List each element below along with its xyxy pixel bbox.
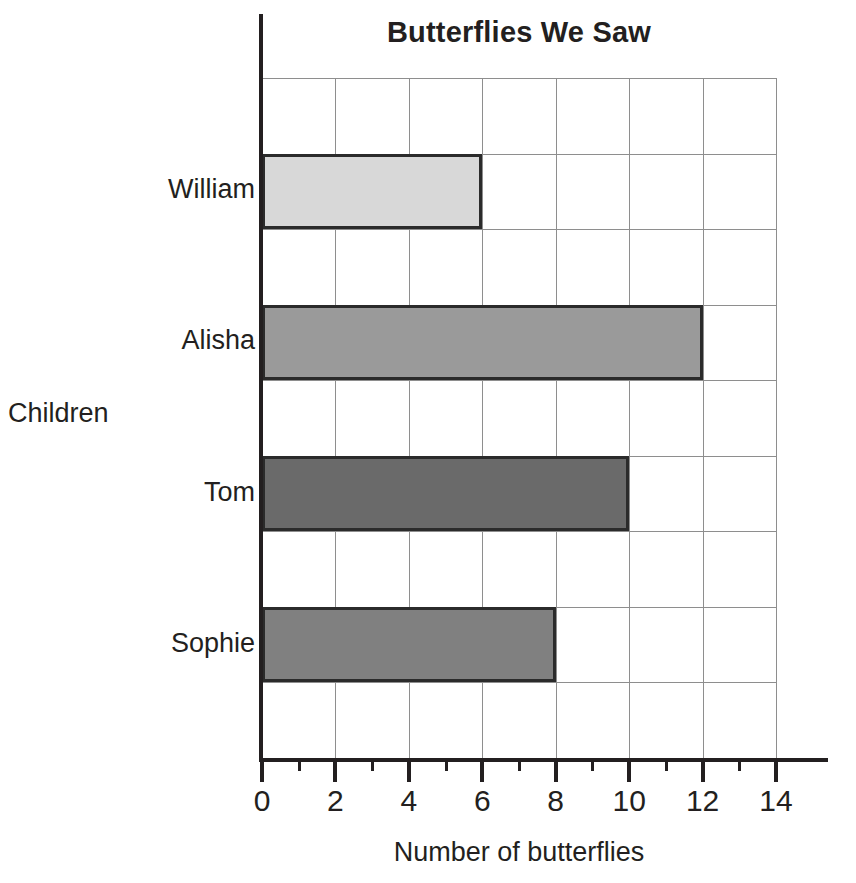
x-axis-line (259, 758, 828, 762)
x-axis-title: Number of butterflies (262, 837, 776, 868)
category-label-sophie: Sophie (25, 628, 255, 659)
x-tick-major (774, 758, 778, 782)
y-axis-title: Children (8, 398, 109, 429)
gridline-horizontal (262, 78, 776, 79)
gridline-horizontal (262, 531, 776, 532)
x-tick-major (333, 758, 337, 782)
y-axis-line (259, 14, 263, 762)
bar-chart: Butterflies We Saw 02468101214 WilliamAl… (0, 0, 856, 883)
bar-william (262, 154, 482, 230)
x-tick-major (627, 758, 631, 782)
gridline-vertical (703, 78, 704, 758)
x-tick-label: 8 (526, 784, 586, 818)
x-tick-major (480, 758, 484, 782)
x-tick-label: 2 (305, 784, 365, 818)
bar-sophie (262, 607, 556, 683)
x-tick-major (701, 758, 705, 782)
x-tick-label: 10 (599, 784, 659, 818)
x-tick-major (260, 758, 264, 782)
gridline-vertical (556, 78, 557, 758)
gridline-vertical (629, 78, 630, 758)
plot-area (262, 78, 776, 758)
category-label-tom: Tom (25, 477, 255, 508)
x-tick-label: 14 (746, 784, 806, 818)
x-tick-minor (371, 758, 374, 771)
x-tick-minor (665, 758, 668, 771)
x-tick-minor (298, 758, 301, 771)
bar-tom (262, 456, 629, 532)
category-label-william: William (25, 174, 255, 205)
x-tick-minor (445, 758, 448, 771)
x-tick-label: 12 (673, 784, 733, 818)
gridline-horizontal (262, 682, 776, 683)
category-label-alisha: Alisha (25, 325, 255, 356)
x-tick-minor (518, 758, 521, 771)
x-tick-label: 6 (452, 784, 512, 818)
bar-alisha (262, 305, 703, 381)
gridline-horizontal (262, 229, 776, 230)
gridline-horizontal (262, 380, 776, 381)
gridline-vertical (776, 78, 777, 758)
x-tick-major (554, 758, 558, 782)
x-tick-label: 4 (379, 784, 439, 818)
y-axis-category-labels: WilliamAlishaTomSophie (10, 0, 255, 883)
chart-title: Butterflies We Saw (262, 16, 776, 49)
x-tick-major (407, 758, 411, 782)
x-tick-minor (738, 758, 741, 771)
x-tick-minor (591, 758, 594, 771)
